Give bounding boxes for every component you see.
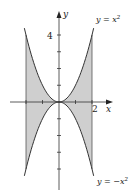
x-axis-label: x	[106, 104, 111, 114]
upper-curve-label: y = x2	[95, 14, 121, 24]
y-axis-label: y	[62, 9, 69, 19]
upper-curve-label-exp: 2	[116, 14, 121, 20]
y-tick-label-4: 4	[47, 31, 53, 41]
lower-curve-label-text: y = −x	[96, 177, 125, 186]
upper-curve-label-text: y = x	[95, 15, 117, 24]
y-axis-arrow-icon	[57, 11, 62, 18]
lower-curve-label: y = −x2	[96, 176, 129, 186]
lower-curve-label-exp: 2	[124, 176, 129, 182]
area-plot: 2 4 x y y = x2 y = −x2	[0, 0, 130, 191]
x-tick-label-2: 2	[92, 104, 98, 114]
